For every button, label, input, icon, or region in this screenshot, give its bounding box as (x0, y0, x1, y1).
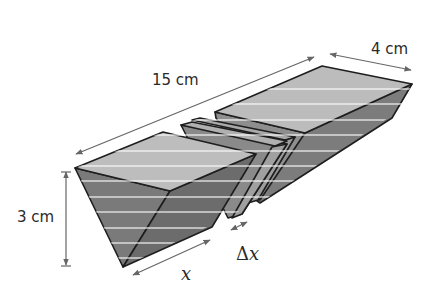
prism-slicing-diagram: 15 cm 4 cm 3 cm x Δx (0, 0, 431, 306)
height-dimension-line (61, 172, 71, 266)
left-block (75, 132, 256, 267)
length-label: 15 cm (152, 71, 199, 89)
position-x-label: x (181, 263, 191, 284)
delta-x-variable: x (249, 243, 259, 264)
delta-x-dimension-line (231, 222, 247, 230)
height-label: 3 cm (17, 208, 54, 226)
delta-symbol: Δ (236, 243, 249, 264)
width-label: 4 cm (371, 40, 408, 58)
delta-x-label: Δx (236, 243, 259, 264)
